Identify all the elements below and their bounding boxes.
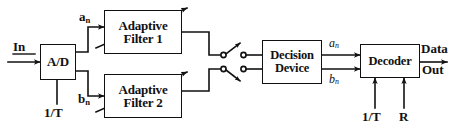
a-n-output-label: an — [329, 37, 339, 50]
b-n-output-subscript: n — [335, 77, 339, 86]
wire-adc-to-filter1 — [75, 27, 104, 52]
adaptive-filter-2-block[interactable]: Adaptive Filter 2 — [104, 74, 182, 118]
a-n-input-subscript: n — [86, 15, 91, 25]
decoder-rate-label: R — [399, 110, 408, 123]
b-n-input-subscript: n — [85, 97, 90, 107]
adc-block[interactable]: A/D — [40, 44, 76, 80]
switch-top-blade — [226, 43, 240, 54]
a-n-input-label: an — [79, 10, 90, 24]
block-diagram-canvas: A/D Adaptive Filter 1 Adaptive Filter 2 … — [0, 0, 456, 125]
b-n-output-label: bn — [329, 73, 339, 86]
wire-filter1-to-switch — [181, 32, 222, 55]
decoder-block[interactable]: Decoder — [360, 44, 420, 78]
output-label-line2: Out — [422, 63, 444, 76]
adc-block-label: A/D — [47, 55, 69, 68]
switch-bottom-left-contact — [221, 66, 226, 71]
decision-device-block[interactable]: Decision Device — [262, 40, 322, 84]
adaptive-filter-2-line1: Adaptive — [119, 83, 168, 96]
decoder-block-label: Decoder — [368, 55, 411, 68]
input-label: In — [13, 40, 25, 53]
adaptive-filter-1-line1: Adaptive — [119, 19, 168, 32]
adaptive-filter-2-line2: Filter 2 — [124, 96, 163, 109]
adaptive-filter-1-line2: Filter 1 — [124, 32, 163, 45]
decoder-clock-label: 1/T — [362, 110, 381, 123]
adaptive-filter-1-block[interactable]: Adaptive Filter 1 — [104, 10, 182, 54]
output-label-line1: Data — [421, 42, 448, 55]
switch-top-left-contact — [221, 52, 226, 57]
decision-device-line2: Device — [275, 62, 309, 75]
switch-bottom-blade — [226, 70, 240, 81]
adc-clock-label: 1/T — [44, 106, 63, 119]
b-n-input-label: bn — [78, 92, 90, 106]
a-n-output-subscript: n — [335, 41, 339, 50]
